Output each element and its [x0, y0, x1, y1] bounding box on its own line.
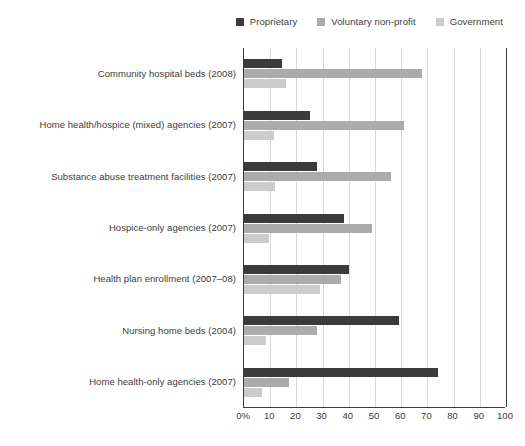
bar [244, 285, 320, 294]
bar-group [244, 214, 505, 243]
bar [244, 234, 269, 243]
bar [244, 131, 274, 140]
legend-label: Proprietary [250, 17, 298, 27]
y-axis-category-labels: Community hospital beds (2008)Home healt… [0, 48, 236, 408]
bar [244, 378, 289, 387]
bar [244, 121, 404, 130]
bar [244, 111, 310, 120]
legend-label: Government [450, 17, 503, 27]
bar [244, 336, 266, 345]
x-axis-tick-label: 10 [264, 411, 275, 421]
bar [244, 69, 422, 78]
legend-label: Voluntary non-profit [331, 17, 415, 27]
legend-item-proprietary: Proprietary [236, 17, 298, 27]
x-axis-tick-label: 60 [395, 411, 406, 421]
bar-group [244, 265, 505, 294]
bar [244, 182, 275, 191]
bar-group [244, 111, 505, 140]
y-axis-category-label: Home health/hospice (mixed) agencies (20… [0, 120, 236, 130]
y-axis-category-label: Health plan enrollment (2007–08) [0, 274, 236, 284]
bar [244, 388, 262, 397]
bar [244, 162, 317, 171]
x-axis-tick-label: 50 [369, 411, 380, 421]
plot-area [243, 48, 505, 408]
x-axis-tick-label: 90 [474, 411, 485, 421]
x-axis-tick-label: 80 [447, 411, 458, 421]
bar [244, 79, 286, 88]
bar-group [244, 316, 505, 345]
legend-item-government: Government [436, 17, 503, 27]
y-axis-category-label: Home health-only agencies (2007) [0, 377, 236, 387]
bar [244, 59, 282, 68]
legend-swatch-icon [436, 18, 444, 26]
bar [244, 224, 372, 233]
bar [244, 368, 438, 377]
y-axis-category-label: Community hospital beds (2008) [0, 69, 236, 79]
y-axis-category-label: Substance abuse treatment facilities (20… [0, 172, 236, 182]
bar-groups [244, 48, 505, 407]
x-axis-tick-label: 70 [421, 411, 432, 421]
bar-chart: Proprietary Voluntary non-profit Governm… [0, 0, 525, 446]
y-axis-category-label: Nursing home beds (2004) [0, 326, 236, 336]
legend-swatch-icon [236, 18, 244, 26]
bar-group [244, 59, 505, 88]
x-axis-tick-label: 30 [316, 411, 327, 421]
y-axis-category-label: Hospice-only agencies (2007) [0, 223, 236, 233]
legend-item-voluntary-non-profit: Voluntary non-profit [317, 17, 415, 27]
bar [244, 316, 399, 325]
gridline [506, 48, 507, 407]
x-axis-tick-label: 40 [343, 411, 354, 421]
bar-group [244, 162, 505, 191]
bar [244, 275, 341, 284]
bar [244, 265, 349, 274]
x-axis-tick-labels: 0%102030405060708090100 [243, 411, 505, 425]
x-axis-tick-label: 100 [497, 411, 513, 421]
bar [244, 214, 344, 223]
chart-legend: Proprietary Voluntary non-profit Governm… [0, 14, 525, 30]
x-axis-tick-label: 20 [290, 411, 301, 421]
bar [244, 172, 391, 181]
bar [244, 326, 317, 335]
bar-group [244, 368, 505, 397]
legend-swatch-icon [317, 18, 325, 26]
x-axis-tick-label: 0% [236, 411, 250, 421]
